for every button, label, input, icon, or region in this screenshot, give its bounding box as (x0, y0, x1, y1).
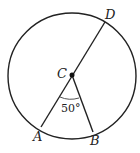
label-a: A (33, 130, 42, 143)
circle-diagram: D C A B 50° (0, 0, 140, 153)
diagram-svg (0, 0, 140, 153)
label-c: C (57, 67, 67, 80)
center-point (70, 73, 75, 78)
angle-arc (60, 97, 79, 99)
label-d: D (105, 8, 115, 21)
label-b: B (90, 134, 100, 147)
angle-label: 50° (61, 103, 81, 114)
